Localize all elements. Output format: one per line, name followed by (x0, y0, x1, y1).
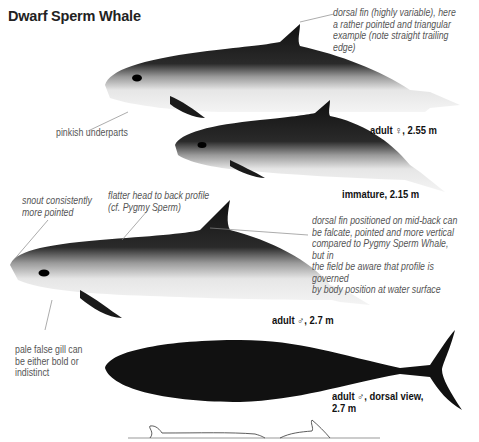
annotation-line: by body position at water surface (312, 284, 459, 296)
annotation-line: more pointed (22, 207, 92, 219)
annotation-line: a rather pointed and triangular (333, 19, 461, 31)
annotation-line: indistinct (15, 367, 83, 379)
annotation-line: be falcate, pointed and more vertical (312, 227, 459, 239)
label-adult-male: adult ♂, 2.7 m (272, 314, 334, 326)
surfacing-profile (128, 420, 380, 438)
annotation-dorsal-fin-top: dorsal fin (highly variable), here a rat… (333, 7, 461, 53)
label-line: adult ♂, dorsal view, (332, 390, 423, 402)
whale-immature (175, 100, 445, 192)
annotation-line: flatter head to back profile (108, 190, 209, 202)
annotation-line: dorsal fin positioned on mid-back can (312, 215, 459, 227)
page-title: Dwarf Sperm Whale (8, 8, 141, 24)
annotation-pinkish-underparts: pinkish underparts (56, 127, 128, 139)
annotation-line: the field be aware that profile is gover… (312, 261, 459, 284)
label-adult-male-dorsal: adult ♂, dorsal view, 2.7 m (332, 390, 423, 414)
annotation-false-gill: pale false gill can be either bold or in… (15, 344, 83, 379)
label-adult-female: adult ♀, 2.55 m (370, 124, 437, 136)
label-line: 2.7 m (332, 402, 423, 414)
label-immature: immature, 2.15 m (342, 188, 419, 200)
annotation-line: dorsal fin (highly variable), here (333, 7, 461, 19)
annotation-line: compared to Pygmy Sperm Whale, but in (312, 238, 459, 261)
annotation-line: be either bold or (15, 356, 83, 368)
annotation-line: (cf. Pygmy Sperm) (108, 202, 209, 214)
annotation-dorsal-fin-mid: dorsal fin positioned on mid-back can be… (312, 215, 459, 296)
annotation-snout: snout consistently more pointed (22, 195, 92, 218)
annotation-line: pale false gill can (15, 344, 83, 356)
annotation-flatter-head: flatter head to back profile (cf. Pygmy … (108, 190, 209, 213)
annotation-line: snout consistently (22, 195, 92, 207)
annotation-line: example (note straight trailing edge) (333, 30, 461, 53)
